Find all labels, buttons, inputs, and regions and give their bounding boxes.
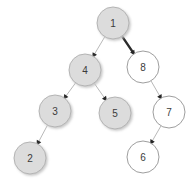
tree-node-6[interactable]: 6 [127,141,159,173]
tree-node-3[interactable]: 3 [39,95,71,127]
tree-node-7[interactable]: 7 [153,96,185,128]
tree-edge-n4-n5 [94,84,107,102]
node-circle[interactable] [39,95,71,127]
node-circle[interactable] [127,51,159,83]
tree-node-2[interactable]: 2 [14,142,46,174]
node-circle[interactable] [97,7,129,39]
tree-edge-n1-n8 [122,37,135,56]
tree-edge-n7-n6 [150,126,161,145]
tree-edge-n1-n4 [92,37,104,58]
tree-node-5[interactable]: 5 [99,97,131,129]
tree-edge-n4-n3 [63,83,75,99]
node-circle[interactable] [99,97,131,129]
node-circle[interactable] [153,96,185,128]
tree-diagram-canvas: 14835726 [0,0,195,185]
tree-node-8[interactable]: 8 [127,51,159,83]
tree-diagram-svg: 14835726 [0,0,195,185]
node-circle[interactable] [69,54,101,86]
node-circle[interactable] [127,141,159,173]
node-circle[interactable] [14,142,46,174]
tree-node-4[interactable]: 4 [69,54,101,86]
tree-node-1[interactable]: 1 [97,7,129,39]
tree-edge-n8-n7 [151,81,162,100]
tree-edge-n3-n2 [37,126,48,146]
